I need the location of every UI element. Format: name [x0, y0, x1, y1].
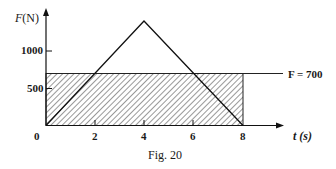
x-tick-label-8: 8	[240, 131, 246, 142]
x-tick-label-0: 0	[34, 131, 40, 142]
x-tick-label-4: 4	[141, 131, 147, 142]
x-tick-label-2: 2	[92, 131, 98, 142]
y-axis-label: F(N)	[15, 12, 39, 24]
reference-line-label: F = 700	[288, 68, 323, 80]
force-time-graph	[0, 0, 336, 169]
hatched-impulse-area	[46, 74, 243, 126]
x-axis-arrow-icon	[276, 123, 284, 129]
y-tick-label-500: 500	[27, 83, 44, 94]
y-tick-label-1000: 1000	[21, 45, 43, 56]
x-tick-label-6: 6	[190, 131, 196, 142]
x-axis-label: t (s)	[293, 130, 312, 142]
y-axis-arrow-icon	[43, 8, 49, 16]
figure-caption: Fig. 20	[148, 148, 182, 163]
